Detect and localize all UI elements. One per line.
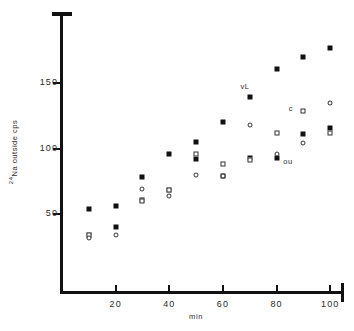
data-point-ou (86, 235, 91, 240)
data-point-vL (301, 54, 306, 59)
x-tick-label: 80 (271, 299, 283, 309)
data-point-c (301, 108, 306, 113)
data-point-vL (113, 225, 118, 230)
data-point-ou (247, 122, 252, 127)
x-tick-label: 40 (163, 299, 175, 309)
series-annotation-c: c (289, 104, 293, 113)
data-point-vL (301, 132, 306, 137)
series-annotation-ou: ou (283, 157, 292, 166)
data-point-c (220, 162, 225, 167)
data-point-vL (328, 45, 333, 50)
x-axis-label: min (189, 312, 203, 321)
data-point-c (274, 130, 279, 135)
y-tick-label: 150 (40, 77, 58, 87)
data-point-vL (140, 175, 145, 180)
y-axis-label: 24Na outside cps (8, 120, 19, 184)
x-tick-mark (168, 285, 170, 293)
data-point-ou (274, 151, 279, 156)
data-point-c (167, 188, 172, 193)
data-point-ou (140, 187, 145, 192)
x-tick-label: 60 (217, 299, 229, 309)
x-tick-mark (222, 285, 224, 293)
data-point-c (140, 198, 145, 203)
data-point-ou (113, 232, 118, 237)
data-point-ou (167, 193, 172, 198)
data-point-ou (220, 174, 225, 179)
scatter-chart: 50100150 20406080100 vLcou min 24Na outs… (0, 0, 354, 331)
x-axis-end-cap (341, 283, 344, 302)
y-tick-label: 50 (46, 208, 58, 218)
y-axis-label-isotope: 24 (8, 176, 14, 184)
data-point-c (328, 130, 333, 135)
x-tick-mark (115, 285, 117, 293)
data-point-ou (301, 141, 306, 146)
y-axis-line (60, 13, 63, 294)
x-axis-line (60, 291, 344, 294)
x-tick-label: 20 (110, 299, 122, 309)
data-point-c (194, 151, 199, 156)
x-tick-mark (329, 285, 331, 293)
data-point-vL (113, 204, 118, 209)
data-point-ou (194, 172, 199, 177)
data-point-vL (194, 156, 199, 161)
x-tick-mark (276, 285, 278, 293)
y-axis-label-text: Na outside cps (10, 120, 19, 177)
x-tick-label: 100 (321, 299, 339, 309)
data-point-vL (274, 66, 279, 71)
data-point-vL (167, 151, 172, 156)
y-tick-label: 100 (40, 143, 58, 153)
data-point-vL (194, 139, 199, 144)
data-point-ou (328, 100, 333, 105)
y-axis-top-cap (52, 12, 72, 16)
data-point-vL (86, 206, 91, 211)
data-point-c (247, 158, 252, 163)
series-annotation-vl: vL (240, 82, 249, 91)
data-point-vL (247, 95, 252, 100)
data-point-vL (220, 120, 225, 125)
